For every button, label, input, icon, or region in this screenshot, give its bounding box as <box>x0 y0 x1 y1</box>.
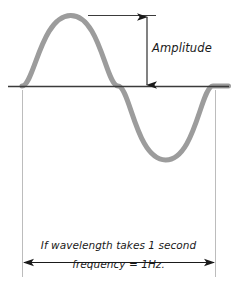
frequency-caption-line-2: frequency = 1Hz. <box>0 259 237 270</box>
sine-wave-curve <box>22 15 229 160</box>
wave-diagram: Amplitude If wavelength takes 1 second f… <box>0 0 237 285</box>
wavelength-caption-line-1: If wavelength takes 1 second <box>0 240 237 251</box>
amplitude-label: Amplitude <box>152 43 212 55</box>
